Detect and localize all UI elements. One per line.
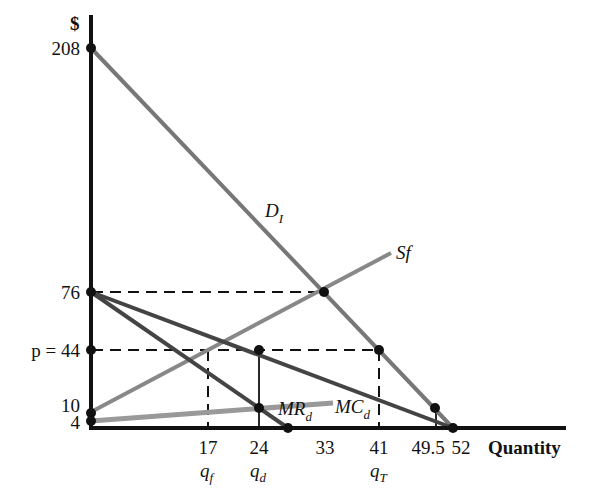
x-tick-49.5: 49.5: [411, 437, 444, 458]
x-tick-17: 17: [199, 437, 218, 458]
demand-line-DI: [91, 48, 453, 428]
x-tick-41: 41: [370, 437, 389, 458]
point-33-76: [319, 287, 329, 297]
point-76: [86, 287, 96, 297]
MCd-label: MCd: [334, 396, 371, 422]
MRd-label: MRd: [277, 398, 312, 424]
point-49.5-10: [430, 403, 440, 413]
qT-label: qT: [370, 460, 388, 485]
y-tick-44: p = 44: [31, 340, 80, 361]
point-208: [86, 43, 96, 53]
point-24-10: [254, 403, 264, 413]
DI-label: DI: [264, 200, 284, 226]
point-44: [86, 345, 96, 355]
point-41-44: [374, 345, 384, 355]
y-tick-208: 208: [52, 38, 81, 59]
chart: $ 208 76 p = 44 10 4 17 24 33 41 49.5 52…: [0, 0, 596, 502]
Sf-label: Sf: [396, 242, 414, 263]
point-52: [448, 423, 458, 433]
point-mr-zero: [283, 423, 293, 433]
point-4: [86, 416, 96, 426]
y-tick-4: 4: [71, 412, 81, 433]
x-axis-label: Quantity: [488, 437, 561, 458]
point-24-44: [254, 345, 264, 355]
qf-label: qf: [200, 460, 216, 485]
x-tick-24: 24: [250, 437, 270, 458]
y-axis-label: $: [70, 13, 80, 34]
qd-label: qd: [250, 460, 267, 485]
x-tick-33: 33: [316, 437, 335, 458]
x-tick-52: 52: [452, 437, 471, 458]
y-tick-76: 76: [61, 282, 80, 303]
